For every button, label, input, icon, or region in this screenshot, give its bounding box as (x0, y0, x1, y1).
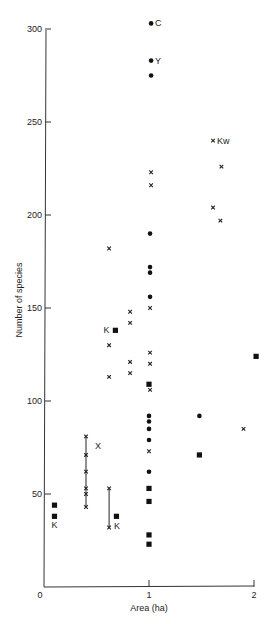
cross-marker (128, 360, 132, 364)
point-label: K (114, 521, 120, 531)
cross-marker (107, 247, 111, 251)
cross-marker (148, 351, 152, 355)
x-tick-label: 2 (251, 590, 256, 600)
cross-marker (128, 371, 132, 375)
dot-marker (147, 419, 152, 424)
dot-marker (147, 427, 152, 432)
square-marker (146, 542, 151, 547)
cross-marker (149, 183, 153, 187)
cross-marker (242, 427, 246, 431)
point-label: X (95, 441, 101, 451)
x-axis-label: Area (ha) (130, 603, 168, 613)
point-label: Y (155, 56, 161, 66)
cross-marker (107, 343, 111, 347)
x-tick-label: 1 (146, 590, 151, 600)
square-marker (197, 452, 202, 457)
square-marker (254, 354, 259, 359)
square-marker (146, 532, 151, 537)
x-tick-label: 0 (37, 590, 42, 600)
dot-marker (148, 295, 153, 300)
square-marker (114, 514, 119, 519)
dot-marker (148, 231, 153, 236)
cross-marker (148, 388, 152, 392)
point-label: K (52, 520, 58, 530)
y-tick-label: 150 (27, 303, 42, 313)
square-marker (146, 382, 151, 387)
cross-marker (148, 306, 152, 310)
y-tick-label: 250 (27, 117, 42, 127)
square-marker (146, 486, 151, 491)
dot-marker (148, 265, 153, 270)
dot-marker (149, 73, 154, 78)
cross-marker (147, 449, 151, 453)
scatter-chart: 50100150200250300 012 Number of species … (0, 0, 277, 624)
data-points: CYKwKKXK (52, 18, 259, 546)
dot-marker (148, 270, 153, 275)
square-marker (146, 499, 151, 504)
y-tick-label: 200 (27, 210, 42, 220)
dot-marker (147, 438, 152, 443)
point-label: C (155, 18, 162, 28)
y-tick-label: 50 (32, 489, 42, 499)
cross-marker (211, 206, 215, 210)
y-tick-label: 100 (27, 396, 42, 406)
cross-marker (128, 310, 132, 314)
cross-marker (211, 139, 215, 143)
y-tick-label: 300 (27, 24, 42, 34)
x-ticks: 012 (37, 580, 256, 600)
square-marker (113, 328, 118, 333)
dot-marker (197, 414, 202, 419)
y-ticks: 50100150200250300 (27, 24, 51, 499)
dot-marker (149, 58, 154, 63)
y-axis-label: Number of species (14, 262, 24, 338)
cross-marker (219, 219, 223, 223)
dot-marker (147, 469, 152, 474)
dot-marker (149, 21, 154, 26)
point-label: Kw (217, 136, 230, 146)
cross-marker (128, 321, 132, 325)
point-label: K (103, 325, 109, 335)
dot-marker (147, 414, 152, 419)
cross-marker (149, 170, 153, 174)
square-marker (52, 514, 57, 519)
cross-marker (220, 165, 224, 169)
cross-marker (148, 362, 152, 366)
square-marker (52, 503, 57, 508)
cross-marker (107, 375, 111, 379)
